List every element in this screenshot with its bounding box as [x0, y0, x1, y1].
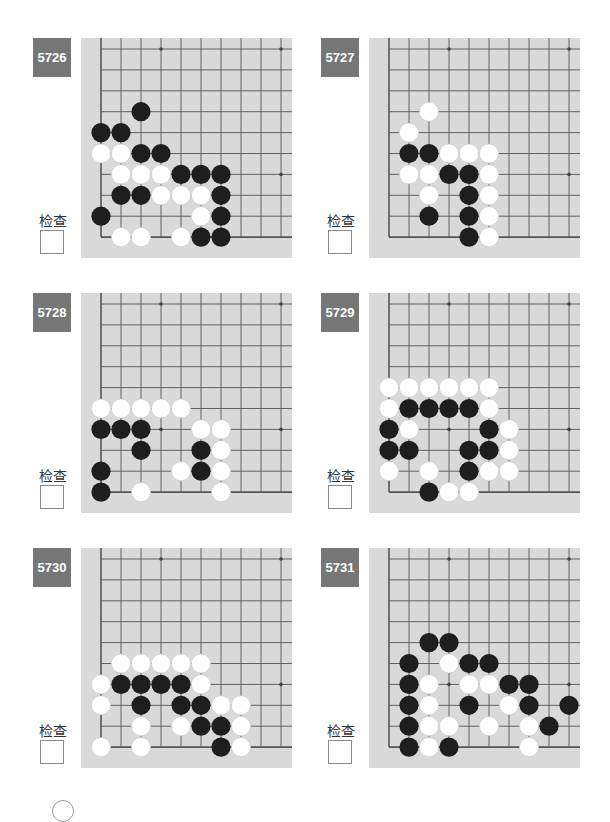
black-stone	[519, 696, 538, 715]
black-stone	[439, 165, 458, 184]
star-point-icon	[279, 683, 283, 687]
star-point-icon	[447, 47, 451, 51]
go-board	[81, 38, 292, 258]
white-stone	[499, 420, 518, 439]
star-point-icon	[567, 302, 571, 306]
black-stone	[171, 696, 190, 715]
black-stone	[479, 654, 498, 673]
black-stone	[91, 123, 110, 142]
black-stone	[211, 165, 230, 184]
board-grid	[81, 293, 292, 513]
black-stone	[131, 441, 150, 460]
star-point-icon	[279, 47, 283, 51]
white-stone	[419, 186, 438, 205]
white-stone	[211, 441, 230, 460]
black-stone	[399, 738, 418, 757]
go-problem-5728: 5728检查	[33, 293, 295, 523]
problem-number-badge: 5731	[321, 548, 359, 587]
star-point-icon	[567, 683, 571, 687]
white-stone	[111, 144, 130, 163]
black-stone	[211, 717, 230, 736]
white-stone	[231, 696, 250, 715]
star-point-icon	[279, 173, 283, 177]
star-point-icon	[279, 428, 283, 432]
black-stone	[419, 399, 438, 418]
white-stone	[479, 717, 498, 736]
black-stone	[399, 675, 418, 694]
white-stone	[211, 462, 230, 481]
white-stone	[459, 483, 478, 502]
white-stone	[379, 378, 398, 397]
white-stone	[519, 717, 538, 736]
check-label: 检查	[39, 465, 67, 485]
white-stone	[171, 399, 190, 418]
star-point-icon	[447, 683, 451, 687]
problem-number-badge: 5727	[321, 38, 359, 77]
check-checkbox[interactable]	[40, 230, 64, 254]
black-stone	[211, 738, 230, 757]
white-stone	[399, 378, 418, 397]
problem-number-badge: 5730	[33, 548, 71, 587]
go-board	[369, 548, 580, 768]
white-stone	[499, 696, 518, 715]
white-stone	[171, 186, 190, 205]
black-stone	[91, 207, 110, 226]
white-stone	[111, 399, 130, 418]
white-stone	[439, 378, 458, 397]
black-stone	[459, 462, 478, 481]
black-stone	[439, 633, 458, 652]
black-stone	[459, 654, 478, 673]
star-point-icon	[567, 47, 571, 51]
star-point-icon	[159, 557, 163, 561]
white-stone	[459, 144, 478, 163]
check-checkbox[interactable]	[40, 485, 64, 509]
black-stone	[559, 696, 578, 715]
white-stone	[479, 228, 498, 247]
white-stone	[439, 483, 458, 502]
white-stone	[131, 165, 150, 184]
white-stone	[191, 207, 210, 226]
black-stone	[419, 633, 438, 652]
go-board	[81, 548, 292, 768]
white-stone	[419, 717, 438, 736]
white-stone	[231, 738, 250, 757]
white-stone	[171, 654, 190, 673]
check-label: 检查	[39, 210, 67, 230]
black-stone	[419, 207, 438, 226]
star-point-icon	[159, 302, 163, 306]
black-stone	[91, 420, 110, 439]
black-stone	[131, 696, 150, 715]
star-point-icon	[447, 557, 451, 561]
black-stone	[151, 675, 170, 694]
black-stone	[191, 462, 210, 481]
white-stone	[111, 228, 130, 247]
check-checkbox[interactable]	[328, 230, 352, 254]
board-grid	[369, 293, 580, 513]
problem-number-badge: 5728	[33, 293, 71, 332]
white-stone	[439, 717, 458, 736]
check-checkbox[interactable]	[328, 740, 352, 764]
black-stone	[459, 165, 478, 184]
white-stone	[191, 186, 210, 205]
white-stone	[191, 420, 210, 439]
black-stone	[399, 399, 418, 418]
white-stone	[419, 675, 438, 694]
white-stone	[439, 144, 458, 163]
white-stone	[479, 165, 498, 184]
check-checkbox[interactable]	[328, 485, 352, 509]
black-stone	[211, 228, 230, 247]
black-stone	[111, 186, 130, 205]
star-point-icon	[159, 428, 163, 432]
go-problem-5727: 5727检查	[321, 38, 583, 268]
black-stone	[191, 228, 210, 247]
white-stone	[131, 228, 150, 247]
black-stone	[399, 144, 418, 163]
black-stone	[399, 441, 418, 460]
black-stone	[171, 165, 190, 184]
black-stone	[399, 717, 418, 736]
black-stone	[379, 420, 398, 439]
check-checkbox[interactable]	[40, 740, 64, 764]
white-stone	[499, 441, 518, 460]
white-stone	[479, 144, 498, 163]
black-stone	[539, 717, 558, 736]
